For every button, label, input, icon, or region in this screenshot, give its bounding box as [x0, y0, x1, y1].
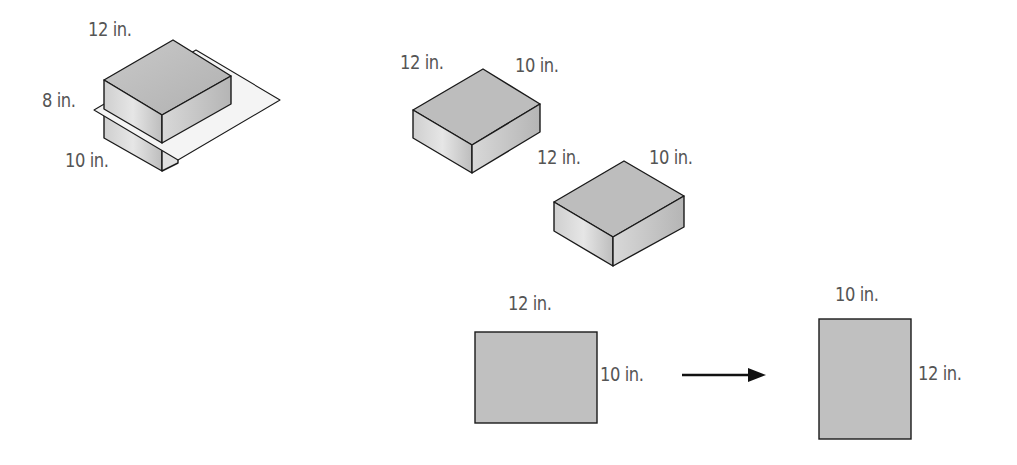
box-b-figure	[554, 161, 684, 266]
rectangle-before	[475, 332, 597, 423]
rect-before-side-label: 10 in.	[600, 363, 643, 385]
rectangle-after	[819, 319, 911, 439]
box-b-length-label: 12 in.	[537, 146, 580, 168]
rect-after-top-label: 10 in.	[835, 283, 878, 305]
diagram-canvas	[0, 0, 1017, 465]
box-a-width-label: 10 in.	[515, 54, 558, 76]
rect-before-top-label: 12 in.	[508, 292, 551, 314]
box-cut-height-label: 8 in.	[42, 89, 76, 111]
box-cut-width-label: 10 in.	[65, 149, 108, 171]
box-with-plane-figure	[94, 40, 280, 171]
box-cut-length-label: 12 in.	[88, 18, 131, 40]
box-a-length-label: 12 in.	[400, 51, 443, 73]
arrow-right-icon	[682, 368, 766, 382]
box-b-width-label: 10 in.	[649, 146, 692, 168]
rect-after-side-label: 12 in.	[918, 362, 961, 384]
box-a-figure	[413, 69, 540, 173]
